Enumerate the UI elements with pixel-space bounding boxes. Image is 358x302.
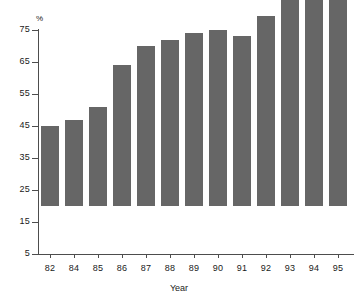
x-axis-title: Year	[0, 283, 358, 293]
x-axis-tick	[266, 254, 267, 258]
x-axis-tick	[122, 254, 123, 258]
x-axis-tick	[50, 254, 51, 258]
x-axis-tick	[98, 254, 99, 258]
bar	[161, 40, 179, 206]
y-axis-tick-label: 45	[0, 120, 30, 130]
x-axis-tick	[194, 254, 195, 258]
x-axis-tick-label: 91	[230, 263, 254, 273]
x-axis-tick-label: 93	[278, 263, 302, 273]
bar	[281, 0, 299, 206]
x-axis-tick-label: 87	[134, 263, 158, 273]
bar	[113, 65, 131, 206]
x-axis-tick	[290, 254, 291, 258]
y-axis-tick-label: 55	[0, 88, 30, 98]
x-axis-tick-label: 86	[110, 263, 134, 273]
bar	[185, 33, 203, 206]
y-axis-tick-label: 35	[0, 152, 30, 162]
y-axis-tick-label: 5	[0, 248, 30, 258]
bar	[137, 46, 155, 206]
x-axis-tick	[146, 254, 147, 258]
x-axis-tick	[314, 254, 315, 258]
x-axis-tick	[338, 254, 339, 258]
x-axis-tick-label: 89	[182, 263, 206, 273]
y-axis-tick-label: 75	[0, 24, 30, 34]
x-axis-tick-label: 92	[254, 263, 278, 273]
x-axis-tick-label: 94	[302, 263, 326, 273]
x-axis-tick	[218, 254, 219, 258]
x-axis-tick-label: 82	[38, 263, 62, 273]
bar-chart: % 515253545556575 8284858687888990919293…	[0, 0, 358, 302]
bar	[89, 107, 107, 206]
x-axis-tick-label: 95	[326, 263, 350, 273]
x-axis-tick-label: 90	[206, 263, 230, 273]
x-axis-tick	[170, 254, 171, 258]
x-axis-tick-label: 88	[158, 263, 182, 273]
y-axis-tick	[32, 254, 38, 255]
y-axis-tick-label: 25	[0, 184, 30, 194]
bar-series	[38, 0, 350, 254]
y-axis-tick-label: 15	[0, 216, 30, 226]
x-axis-tick	[242, 254, 243, 258]
bar	[329, 0, 347, 206]
bar	[257, 16, 275, 206]
x-axis-line	[32, 254, 354, 255]
bar	[65, 120, 83, 206]
bar	[233, 36, 251, 206]
bar	[305, 0, 323, 206]
x-axis-tick	[74, 254, 75, 258]
bar	[41, 126, 59, 206]
y-axis-tick-label: 65	[0, 56, 30, 66]
x-axis-tick-label: 84	[62, 263, 86, 273]
x-axis-tick-label: 85	[86, 263, 110, 273]
bar	[209, 30, 227, 206]
